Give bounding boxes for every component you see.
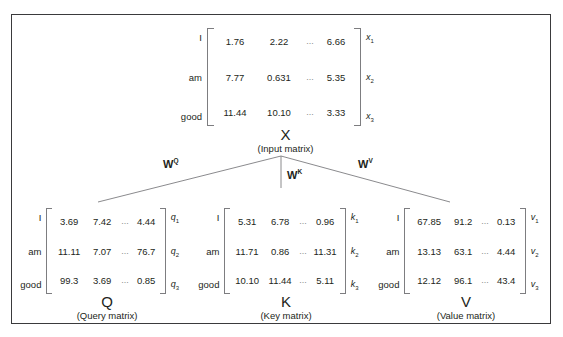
matrix-k-cell: 5.11 [310, 275, 340, 286]
matrix-k-cell-ellipsis: ... [296, 246, 310, 257]
matrix-q-row-labels: I am good [18, 208, 46, 290]
matrix-q-row-label: I [18, 212, 41, 223]
weight-label-wk: WK [287, 169, 302, 181]
matrix-v-body: I am good 67.85 91.2 ... 0.13 13.13 63.1… [376, 208, 548, 294]
matrix-q-description: (Query matrix) [26, 311, 188, 321]
matrix-q-cell: 4.44 [132, 216, 160, 227]
matrix-k-cell: 0.86 [264, 246, 296, 257]
matrix-v-col-label: v2 [531, 246, 548, 257]
matrix-x-cells: 1.76 2.22 ... 6.66 7.77 0.631 ... 5.35 1… [214, 28, 354, 126]
table-row: 3.69 7.42 ... 4.44 [52, 216, 160, 227]
matrix-v-cell: 43.4 [492, 275, 520, 286]
matrix-v-row-label: good [376, 279, 399, 290]
matrix-v-col-label: v3 [531, 279, 548, 290]
matrix-q-cell: 3.69 [86, 275, 118, 286]
matrix-v: I am good 67.85 91.2 ... 0.13 13.13 63.1… [376, 208, 548, 321]
matrix-q-cell: 7.07 [86, 246, 118, 257]
matrix-x-col-label: x3 [366, 111, 392, 122]
matrix-v-row-labels: I am good [376, 208, 404, 290]
matrix-k-cell-ellipsis: ... [296, 275, 310, 286]
matrix-q-cell-ellipsis: ... [118, 216, 132, 227]
matrix-q-cell: 7.42 [86, 216, 118, 227]
matrix-v-cells: 67.85 91.2 ... 0.13 13.13 63.1 ... 4.44 … [410, 208, 520, 294]
matrix-q-col-label: q3 [171, 279, 188, 290]
matrix-x-cell: 1.76 [214, 36, 256, 47]
matrix-v-cell-ellipsis: ... [478, 246, 492, 257]
matrix-x-cell: 11.44 [214, 107, 256, 118]
matrix-x-cell: 10.10 [256, 107, 302, 118]
matrix-k-cell: 6.78 [264, 216, 296, 227]
matrix-v-col-labels: v1 v2 v3 [526, 208, 548, 290]
matrix-k-col-label: k2 [351, 246, 368, 257]
matrix-v-row-label: am [376, 246, 399, 257]
matrix-v-row-label: I [376, 212, 399, 223]
matrix-v-cell: 91.2 [448, 216, 478, 227]
matrix-q-caption: Q (Query matrix) [18, 294, 188, 321]
table-row: 99.3 3.69 ... 0.85 [52, 275, 160, 286]
matrix-x-col-labels: x1 x2 x3 [361, 28, 392, 122]
matrix-x-row-label: am [168, 72, 202, 83]
matrix-k-name: K [204, 294, 368, 310]
matrix-x-row-label: I [168, 32, 202, 43]
matrix-x-name: X [178, 127, 393, 143]
table-row: 5.31 6.78 ... 0.96 [230, 216, 340, 227]
matrix-k-row-label: am [196, 246, 219, 257]
matrix-q-row-label: good [18, 279, 41, 290]
matrix-q-bracket-left [46, 208, 52, 294]
matrix-k-cell: 0.96 [310, 216, 340, 227]
matrix-v-col-label: v1 [531, 212, 548, 223]
matrix-q-cell: 76.7 [132, 246, 160, 257]
matrix-x-cell: 7.77 [214, 72, 256, 83]
table-row: 11.44 10.10 ... 3.33 [214, 107, 354, 118]
attention-matrices-figure: I am good 1.76 2.22 ... 6.66 7.77 0.631 … [0, 0, 563, 337]
matrix-v-cell: 96.1 [448, 275, 478, 286]
matrix-k-cell: 11.71 [230, 246, 264, 257]
matrix-x-cell-ellipsis: ... [302, 72, 318, 83]
matrix-v-cell: 63.1 [448, 246, 478, 257]
matrix-v-cell: 0.13 [492, 216, 520, 227]
matrix-v-cell-ellipsis: ... [478, 216, 492, 227]
matrix-v-cell-ellipsis: ... [478, 275, 492, 286]
matrix-q-name: Q [26, 294, 188, 310]
matrix-q-cells: 3.69 7.42 ... 4.44 11.11 7.07 ... 76.7 9… [52, 208, 160, 294]
matrix-k-cell: 10.10 [230, 275, 264, 286]
matrix-x-cell: 6.66 [318, 36, 354, 47]
matrix-q-cell: 0.85 [132, 275, 160, 286]
matrix-q-cell: 3.69 [52, 216, 86, 227]
matrix-k-body: I am good 5.31 6.78 ... 0.96 11.71 0.86 … [196, 208, 368, 294]
matrix-q: I am good 3.69 7.42 ... 4.44 11.11 7.07 … [18, 208, 188, 321]
matrix-k-row-label: good [196, 279, 219, 290]
matrix-v-cell: 12.12 [410, 275, 448, 286]
matrix-k-caption: K (Key matrix) [196, 294, 368, 321]
matrix-k-cell: 11.31 [310, 246, 340, 257]
matrix-v-bracket-left [404, 208, 410, 294]
matrix-v-name: V [384, 294, 548, 310]
matrix-x-bracket-right [354, 28, 361, 126]
matrix-k: I am good 5.31 6.78 ... 0.96 11.71 0.86 … [196, 208, 368, 321]
matrix-x-row-label: good [168, 111, 202, 122]
table-row: 11.11 7.07 ... 76.7 [52, 246, 160, 257]
matrix-q-col-label: q1 [171, 212, 188, 223]
weight-label-wv: WV [358, 158, 373, 170]
matrix-x-cell-ellipsis: ... [302, 107, 318, 118]
matrix-k-row-labels: I am good [196, 208, 224, 290]
matrix-k-cell-ellipsis: ... [296, 216, 310, 227]
matrix-x: I am good 1.76 2.22 ... 6.66 7.77 0.631 … [168, 28, 393, 154]
matrix-q-cell: 99.3 [52, 275, 86, 286]
matrix-q-cell-ellipsis: ... [118, 246, 132, 257]
matrix-k-col-labels: k1 k2 k3 [346, 208, 368, 290]
matrix-q-col-labels: q1 q2 q3 [166, 208, 188, 290]
matrix-k-cells: 5.31 6.78 ... 0.96 11.71 0.86 ... 11.31 … [230, 208, 340, 294]
matrix-k-bracket-left [224, 208, 230, 294]
matrix-x-cell-ellipsis: ... [302, 36, 318, 47]
matrix-q-bracket-right [160, 208, 166, 294]
matrix-x-col-label: x2 [366, 72, 392, 83]
matrix-q-body: I am good 3.69 7.42 ... 4.44 11.11 7.07 … [18, 208, 188, 294]
matrix-x-cell: 5.35 [318, 72, 354, 83]
matrix-x-col-label: x1 [366, 32, 392, 43]
matrix-x-description: (Input matrix) [178, 144, 393, 154]
matrix-x-cell: 0.631 [256, 72, 302, 83]
matrix-v-description: (Value matrix) [384, 311, 548, 321]
matrix-k-bracket-right [340, 208, 346, 294]
matrix-v-bracket-right [520, 208, 526, 294]
